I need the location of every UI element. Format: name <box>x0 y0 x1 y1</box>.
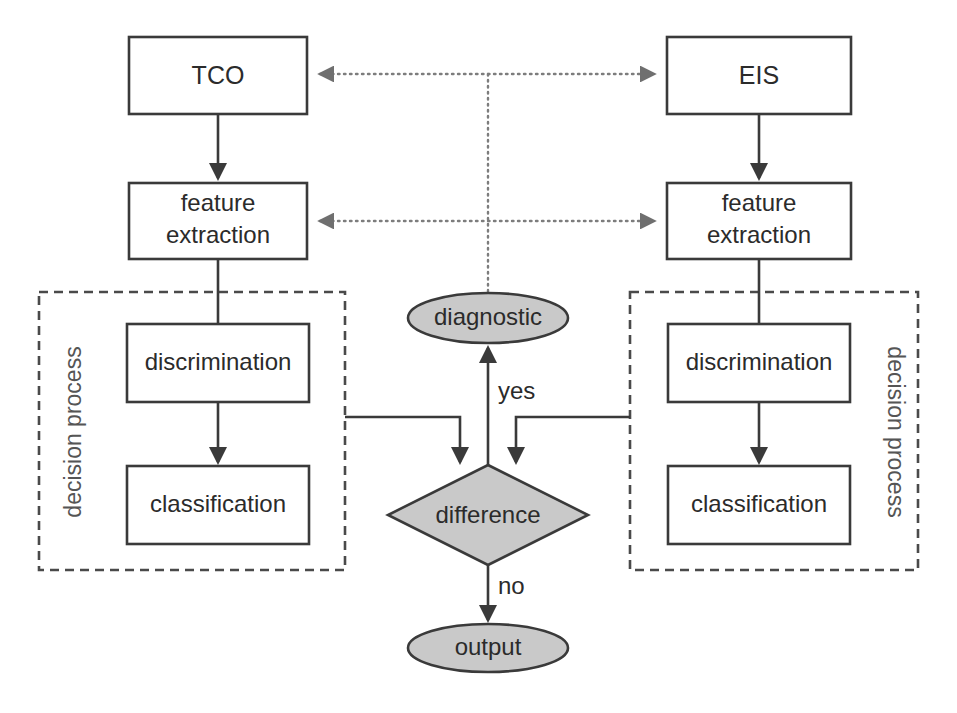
tco-label: TCO <box>192 61 245 89</box>
feature-extraction-left-label-line2: extraction <box>166 221 270 248</box>
node-discrimination-left: discrimination <box>127 324 309 402</box>
eis-label: EIS <box>739 61 779 89</box>
node-output: output <box>408 624 568 672</box>
feature-extraction-right-label-line2: extraction <box>707 221 811 248</box>
diagnostic-label: diagnostic <box>434 303 542 330</box>
output-label: output <box>455 633 522 660</box>
node-discrimination-right: discrimination <box>668 324 850 402</box>
edge-right-group-to-difference <box>516 417 630 462</box>
difference-label: difference <box>436 501 541 528</box>
node-eis: EIS <box>667 37 851 114</box>
edge-left-group-to-difference <box>345 417 460 462</box>
decision-process-right-label: decision process <box>883 346 909 517</box>
edge-label-no: no <box>498 572 525 599</box>
flowchart-diagram: decision process decision process TCO fe… <box>0 0 957 713</box>
classification-left-label: classification <box>150 490 286 517</box>
node-feature-extraction-right: feature extraction <box>667 183 851 259</box>
edge-label-yes: yes <box>498 377 535 404</box>
node-feature-extraction-left: feature extraction <box>129 183 307 259</box>
node-classification-right: classification <box>668 466 850 544</box>
feature-extraction-right-label-line1: feature <box>722 189 797 216</box>
decision-process-left-label: decision process <box>60 346 86 517</box>
node-diagnostic: diagnostic <box>408 293 568 343</box>
feature-extraction-left-label-line1: feature <box>181 189 256 216</box>
node-tco: TCO <box>129 37 307 114</box>
classification-right-label: classification <box>691 490 827 517</box>
node-classification-left: classification <box>127 466 309 544</box>
discrimination-left-label: discrimination <box>145 348 292 375</box>
discrimination-right-label: discrimination <box>686 348 833 375</box>
diagram-canvas: decision process decision process TCO fe… <box>0 0 957 713</box>
node-difference: difference <box>388 465 588 565</box>
